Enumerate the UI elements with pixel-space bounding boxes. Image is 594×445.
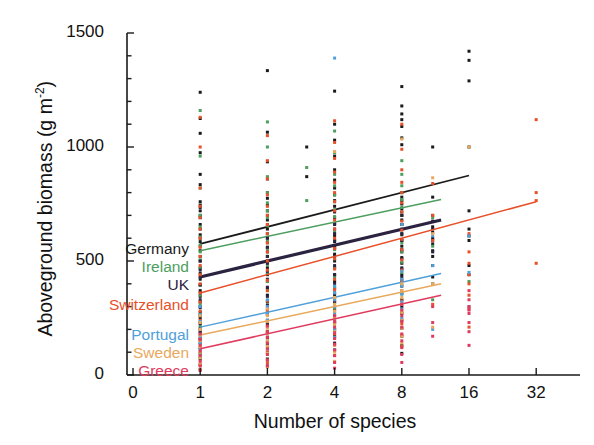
data-point <box>400 309 403 312</box>
data-point <box>468 262 471 265</box>
data-point <box>333 288 336 291</box>
data-point <box>468 50 471 53</box>
data-point <box>305 166 308 169</box>
legend-item-uk: UK <box>0 276 193 294</box>
data-point <box>400 326 403 329</box>
data-point <box>400 220 403 223</box>
data-point <box>431 335 434 338</box>
data-point <box>333 209 336 212</box>
data-point <box>431 245 434 248</box>
data-point <box>535 262 538 265</box>
data-point <box>305 199 308 202</box>
data-point <box>431 146 434 149</box>
data-point <box>199 173 202 176</box>
data-point <box>400 339 403 342</box>
data-point <box>266 324 269 327</box>
data-point <box>266 336 269 339</box>
data-point <box>266 364 269 367</box>
data-point <box>199 360 202 363</box>
data-point <box>468 209 471 212</box>
data-point <box>431 264 434 267</box>
figure-container: 1500 1000 500 0 012481632 Aboveground bi… <box>0 0 594 445</box>
data-point <box>266 193 269 196</box>
data-point <box>468 146 471 149</box>
data-point <box>468 228 471 231</box>
data-point <box>468 271 471 274</box>
data-point <box>333 285 336 288</box>
data-point <box>400 258 403 261</box>
data-point <box>333 228 336 231</box>
data-point <box>199 328 202 331</box>
data-point <box>400 181 403 184</box>
data-point <box>333 171 336 174</box>
regression-line-uk <box>200 220 441 277</box>
data-point <box>333 150 336 153</box>
data-point <box>199 155 202 158</box>
data-point <box>199 305 202 308</box>
data-point <box>468 321 471 324</box>
data-point <box>333 205 336 208</box>
data-point <box>468 312 471 315</box>
data-point <box>266 228 269 231</box>
data-point <box>266 260 269 263</box>
y-axis-title-tail: ) <box>34 81 56 88</box>
data-point <box>266 314 269 317</box>
data-point <box>400 138 403 141</box>
data-point <box>266 223 269 226</box>
data-point <box>333 303 336 306</box>
data-point <box>468 250 471 253</box>
data-point <box>431 176 434 179</box>
data-point <box>400 85 403 88</box>
data-point <box>266 298 269 301</box>
data-point <box>333 267 336 270</box>
data-point <box>431 321 434 324</box>
data-point <box>266 131 269 134</box>
data-point <box>400 173 403 176</box>
data-point <box>400 191 403 194</box>
data-point <box>400 332 403 335</box>
data-point <box>266 209 269 212</box>
data-point <box>305 175 308 178</box>
data-point <box>400 201 403 204</box>
data-point <box>333 278 336 281</box>
data-point <box>333 200 336 203</box>
data-point <box>468 305 471 308</box>
data-point <box>199 282 202 285</box>
data-point <box>400 112 403 115</box>
regression-line-sweden <box>200 284 441 335</box>
data-point <box>333 343 336 346</box>
data-point <box>266 295 269 298</box>
data-point <box>468 79 471 82</box>
data-point <box>400 296 403 299</box>
data-point <box>400 118 403 121</box>
data-point <box>468 282 471 285</box>
x-tick-label: 4 <box>315 383 355 403</box>
regression-line-greece <box>200 295 441 349</box>
data-point <box>468 289 471 292</box>
data-point <box>199 228 202 231</box>
data-point <box>199 146 202 149</box>
data-point <box>333 218 336 221</box>
data-point <box>400 210 403 213</box>
data-point <box>266 347 269 350</box>
data-point <box>400 148 403 151</box>
data-point <box>199 350 202 353</box>
data-point <box>400 278 403 281</box>
data-point <box>199 183 202 186</box>
data-point <box>333 191 336 194</box>
data-point <box>431 305 434 308</box>
data-point <box>535 118 538 121</box>
data-point <box>266 205 269 208</box>
series-switzerland <box>199 116 538 366</box>
data-point <box>199 273 202 276</box>
data-point <box>400 159 403 162</box>
data-point <box>199 269 202 272</box>
data-point <box>400 346 403 349</box>
data-point <box>333 273 336 276</box>
regression-line-portugal <box>200 274 441 328</box>
data-point <box>333 223 336 226</box>
data-point <box>468 59 471 62</box>
data-point <box>400 361 403 364</box>
data-point <box>199 109 202 112</box>
data-point <box>199 364 202 367</box>
